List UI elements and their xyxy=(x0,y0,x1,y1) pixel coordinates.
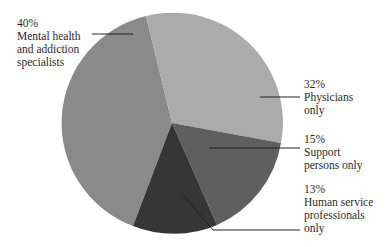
label-line: Mental health xyxy=(17,30,81,43)
pct-support: 15% xyxy=(304,133,362,146)
label-line: only xyxy=(304,104,353,117)
pct-human-service: 13% xyxy=(304,183,373,196)
label-physicians: 32% Physicians only xyxy=(304,78,353,117)
label-mental-health: 40% Mental health and addiction speciali… xyxy=(17,17,81,69)
label-line: Support xyxy=(304,146,362,159)
label-line: only xyxy=(304,222,373,235)
label-support: 15% Support persons only xyxy=(304,133,362,172)
label-line: Human service xyxy=(304,196,373,209)
label-line: professionals xyxy=(304,209,373,222)
pct-physicians: 32% xyxy=(304,78,353,91)
label-line: and addiction xyxy=(17,43,81,56)
label-line: specialists xyxy=(17,56,81,69)
label-line: Physicians xyxy=(304,91,353,104)
label-human-service: 13% Human service professionals only xyxy=(304,183,373,235)
label-line: persons only xyxy=(304,159,362,172)
pct-mental-health: 40% xyxy=(17,17,81,30)
